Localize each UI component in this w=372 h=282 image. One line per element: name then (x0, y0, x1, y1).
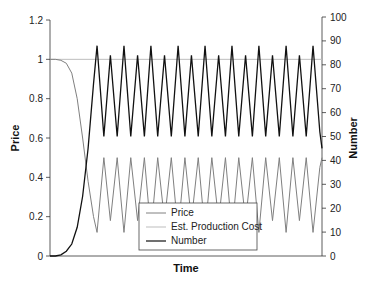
price-tick-label: 0 (37, 251, 43, 262)
number-tick-label: 20 (330, 203, 342, 214)
number-tick-label: 50 (330, 131, 342, 142)
price-tick-label: 0.8 (29, 93, 43, 104)
price-number-chart: 00.20.40.60.811.2 0102030405060708090100… (0, 0, 372, 282)
y2-axis-title: Number (347, 117, 359, 159)
number-tick-label: 80 (330, 59, 342, 70)
number-tick-label: 0 (330, 251, 336, 262)
price-tick-label: 1.2 (29, 15, 43, 26)
number-tick-label: 10 (330, 227, 342, 238)
legend-label-price: Price (171, 207, 194, 218)
number-tick-label: 70 (330, 83, 342, 94)
number-tick-label: 60 (330, 107, 342, 118)
number-tick-label: 100 (330, 12, 347, 23)
price-axis: 00.20.40.60.811.2 (29, 15, 50, 262)
number-tick-label: 90 (330, 35, 342, 46)
x-axis-title: Time (173, 262, 198, 274)
number-tick-label: 40 (330, 155, 342, 166)
price-tick-label: 0.2 (29, 211, 43, 222)
legend-label-est-production-cost: Est. Production Cost (171, 221, 262, 232)
legend-label-number: Number (171, 235, 207, 246)
number-axis: 0102030405060708090100 (322, 12, 347, 262)
price-tick-label: 1 (37, 54, 43, 65)
price-tick-label: 0.6 (29, 133, 43, 144)
y-axis-title: Price (9, 125, 21, 152)
number-tick-label: 30 (330, 179, 342, 190)
price-tick-label: 0.4 (29, 172, 43, 183)
legend: Price Est. Production Cost Number (139, 203, 262, 250)
